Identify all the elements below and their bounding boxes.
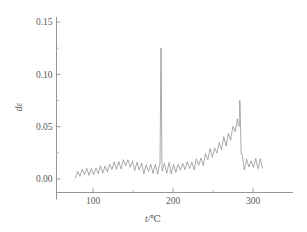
chart-svg: 0.000.050.100.15 100200300 t/℃ dε xyxy=(0,0,307,232)
x-tick-label: 200 xyxy=(166,196,181,206)
x-tick-label: 100 xyxy=(86,196,101,206)
y-tick-label: 0.05 xyxy=(36,122,53,132)
y-tick-label: 0.00 xyxy=(36,174,53,184)
chart-figure: 0.000.050.100.15 100200300 t/℃ dε xyxy=(0,0,307,232)
y-tick-label: 0.15 xyxy=(36,17,53,27)
x-tick-label: 300 xyxy=(246,196,261,206)
y-axis-title: dε xyxy=(14,103,24,112)
y-tick-label: 0.10 xyxy=(36,70,53,80)
chart-background xyxy=(0,0,307,232)
x-axis-title: t/℃ xyxy=(145,214,161,224)
